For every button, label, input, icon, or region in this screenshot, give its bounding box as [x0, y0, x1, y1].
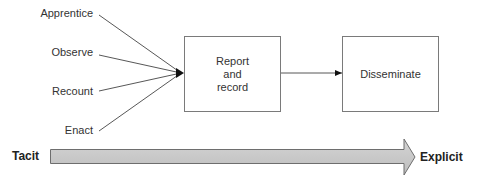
input-label-apprentice: Apprentice: [3, 7, 93, 19]
tacit-explicit-arrow: [51, 139, 416, 175]
report-and-record-box: Report and record: [184, 36, 281, 112]
explicit-label: Explicit: [420, 150, 463, 164]
convergence-arrowhead-icon: [176, 68, 184, 78]
tacit-label: Tacit: [12, 149, 39, 163]
report-and-record-label: Report and record: [216, 55, 249, 94]
disseminate-label: Disseminate: [360, 68, 421, 81]
input-label-observe: Observe: [3, 46, 93, 58]
input-label-enact: Enact: [3, 124, 93, 136]
input-label-recount: Recount: [3, 85, 93, 97]
disseminate-box: Disseminate: [342, 36, 439, 112]
